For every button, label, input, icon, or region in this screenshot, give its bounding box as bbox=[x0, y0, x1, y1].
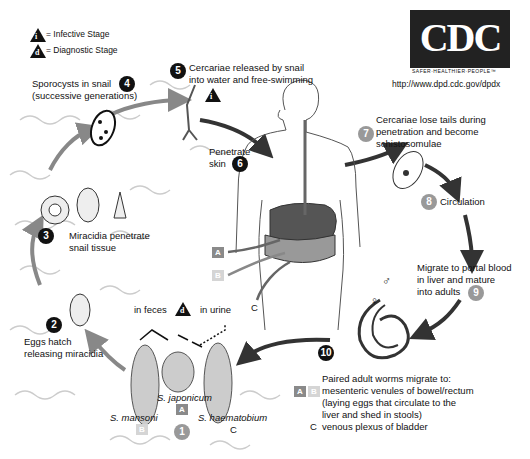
body-tag-b: B bbox=[212, 270, 224, 281]
egg-species-mansoni: S. mansoni bbox=[110, 412, 158, 424]
stage-9-label-line1: Migrate to portal blood bbox=[417, 262, 512, 274]
stage-4-label-line1: Sporocysts in snail bbox=[32, 78, 111, 90]
female-symbol: ♀ bbox=[370, 296, 379, 308]
stage-10-ab-note-line1: (laying eggs that circulate to the bbox=[322, 397, 456, 409]
in-feces-label: in feces bbox=[134, 304, 167, 316]
stage-2-label-line1: Eggs hatch bbox=[24, 336, 72, 348]
infective-stage-marker: i bbox=[205, 88, 221, 102]
stage-10-c-letter: C bbox=[310, 421, 317, 433]
stage-9-label-line3: into adults bbox=[417, 286, 460, 298]
arrow-8-to-9 bbox=[465, 215, 472, 262]
stage-7-label-line2: penetration and become bbox=[376, 126, 478, 138]
stage-3-label-line1: Miracidia penetrate bbox=[69, 230, 150, 242]
cdc-tagline: SAFER·HEALTHIER·PEOPLE™ bbox=[412, 68, 496, 74]
arrow-4-to-5 bbox=[110, 100, 180, 115]
stage-10-label: Paired adult worms migrate to: bbox=[322, 373, 451, 385]
stage-4-label-line2: (successive generations) bbox=[32, 90, 137, 102]
infective-stage-icon: i bbox=[30, 28, 46, 42]
stage-6-number: 6 bbox=[232, 156, 248, 172]
egg-tag-japonicum: A bbox=[176, 404, 188, 415]
egg-tag-mansoni: B bbox=[136, 424, 148, 435]
intestines bbox=[265, 203, 336, 262]
stage-6-label-line1: Penetrate bbox=[209, 146, 250, 158]
legend-infective-label: = Infective Stage bbox=[46, 29, 110, 40]
stage-10-ab-line: mesenteric venules of bowel/rectum bbox=[322, 385, 474, 397]
stage-7-number: 7 bbox=[358, 126, 374, 142]
stage-10-number: 10 bbox=[318, 345, 334, 361]
diagnostic-stage-marker: d bbox=[175, 302, 191, 316]
egg-species-japonicum: S. japonicum bbox=[157, 392, 212, 404]
in-urine-label: in urine bbox=[200, 304, 231, 316]
stage-9-number: 9 bbox=[468, 285, 484, 301]
cdc-url: http://www.dpd.cdc.gov/dpdx bbox=[392, 79, 500, 90]
stage-2-label-line2: releasing miracidia bbox=[24, 348, 103, 360]
body-tag-a: A bbox=[212, 247, 224, 258]
body-tag-c: C bbox=[251, 302, 258, 314]
cercaria-drawing bbox=[183, 85, 197, 140]
cdc-logo: CDC bbox=[410, 10, 510, 68]
miracidium-drawing bbox=[70, 294, 90, 326]
stage-3-label-line2: snail tissue bbox=[69, 242, 116, 254]
stage-5-label-line1: Cercariae released by snail bbox=[189, 62, 304, 74]
snails bbox=[41, 188, 126, 224]
stage-4-number: 4 bbox=[119, 76, 135, 92]
arrow-9-to-10 bbox=[420, 300, 460, 334]
arrow-7-to-8 bbox=[425, 165, 455, 192]
male-symbol: ♂ bbox=[382, 276, 391, 288]
diagnostic-stage-icon: d bbox=[30, 44, 46, 58]
stage-2-number: 2 bbox=[46, 317, 62, 333]
stage-6-label-line2: skin bbox=[209, 158, 226, 170]
stage-7-label-line1: Cercariae lose tails during bbox=[376, 114, 486, 126]
schistosomula-drawing bbox=[387, 146, 430, 194]
tag-b: B bbox=[308, 386, 320, 397]
egg-species-haematobium: S. haematobium bbox=[198, 412, 267, 424]
stage-10-ab-note-line2: liver and shed in stools) bbox=[322, 409, 422, 421]
stage-7-label-line3: schistosomulae bbox=[376, 138, 441, 150]
stage-8-label: Circulation bbox=[440, 196, 485, 208]
adult-worms-drawing bbox=[359, 300, 408, 358]
stage-9-label-line2: in liver and mature bbox=[417, 274, 495, 286]
stage-3-number: 3 bbox=[38, 228, 54, 244]
arrow-10-to-1 bbox=[245, 340, 330, 358]
legend-diagnostic-label: = Diagnostic Stage bbox=[46, 45, 118, 56]
stage-10-c-line: venous plexus of bladder bbox=[322, 421, 428, 433]
arrow-3-to-4 bbox=[50, 130, 90, 170]
tag-a: A bbox=[294, 386, 306, 397]
stage-5-label-line2: into water and free-swimming bbox=[189, 74, 313, 86]
egg-tag-haematobium: C bbox=[230, 424, 237, 436]
stage-8-number: 8 bbox=[421, 194, 437, 210]
stage-5-number: 5 bbox=[170, 63, 186, 79]
stage-1-number: 1 bbox=[174, 424, 190, 440]
